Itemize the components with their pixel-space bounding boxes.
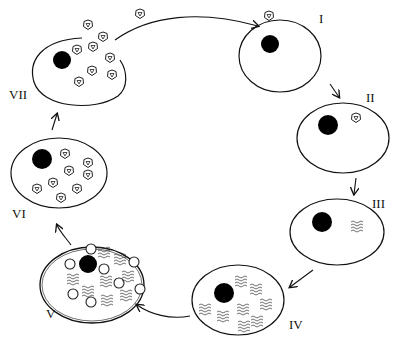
stage-label-iii: III	[372, 197, 385, 210]
stage-iii-cell	[290, 199, 384, 265]
stage-v-cell	[40, 244, 145, 323]
stage-label-ii: II	[366, 91, 375, 104]
stage-label-v: V	[46, 307, 55, 320]
stage-iv-cell	[192, 265, 284, 335]
stage-label-vi: VI	[12, 207, 26, 220]
stage-ii-cell	[297, 103, 389, 173]
stage-i-cell	[239, 11, 321, 92]
viral-cycle-diagram: I II III IV V VI VII	[0, 0, 396, 348]
stage-vi-cell	[11, 138, 107, 208]
stage-label-vii: VII	[9, 88, 27, 101]
stage-vii-cell	[33, 9, 145, 105]
stage-label-i: I	[319, 12, 323, 25]
stage-label-iv: IV	[289, 318, 303, 331]
